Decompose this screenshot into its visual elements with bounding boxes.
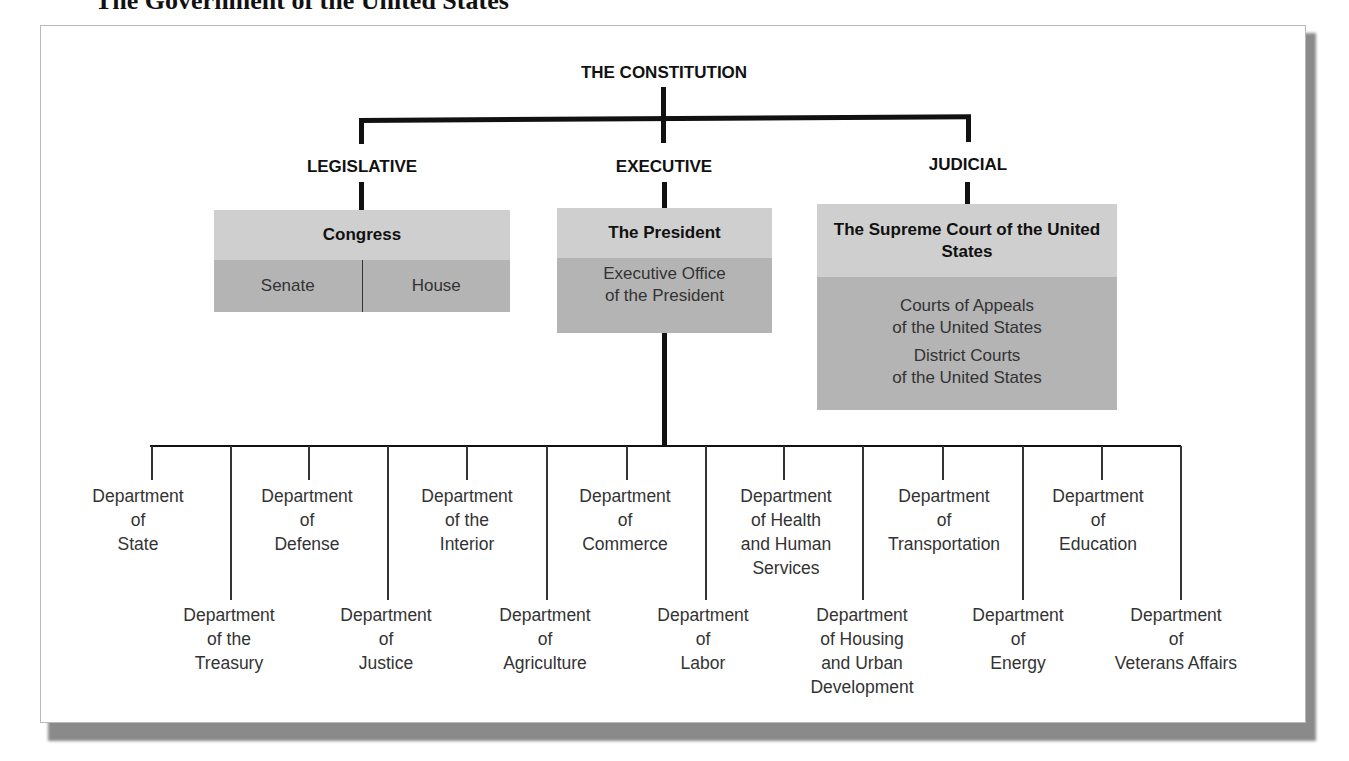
house-cell: House [363, 260, 511, 312]
drop-state [151, 446, 153, 480]
dept-treasury: Department of the Treasury [149, 603, 309, 675]
supreme-court-title: The Supreme Court of the United States [817, 204, 1117, 277]
dept-energy: Department of Energy [938, 603, 1098, 675]
district-courts: District Courts of the United States [817, 345, 1117, 389]
executive-trunk [662, 333, 667, 447]
executive-office: Executive Office of the President [557, 258, 772, 333]
legislative-drop [359, 182, 364, 211]
executive-label: EXECUTIVE [616, 157, 712, 177]
dept-transportation: Department of Transportation [864, 484, 1024, 556]
dept-education: Department of Education [1018, 484, 1178, 556]
dept-agriculture: Department of Agriculture [465, 603, 625, 675]
drop-defense [308, 446, 310, 480]
judicial-drop [965, 182, 970, 205]
dept-state: Department of State [58, 484, 218, 556]
drop-interior [466, 446, 468, 480]
drop-hhs [783, 446, 785, 480]
drop-transportation [942, 446, 944, 480]
courts-of-appeals: Courts of Appeals of the United States [817, 295, 1117, 339]
judicial-connector [966, 116, 971, 142]
legislative-label: LEGISLATIVE [307, 157, 417, 177]
dept-defense: Department of Defense [227, 484, 387, 556]
dept-labor: Department of Labor [623, 603, 783, 675]
dept-veterans: Department of Veterans Affairs [1096, 603, 1256, 675]
congress-chambers: Senate House [214, 260, 510, 312]
drop-education [1101, 446, 1103, 480]
congress-box: Congress Senate House [214, 210, 510, 312]
supreme-court-box: The Supreme Court of the United States C… [817, 204, 1117, 410]
dept-hhs: Department of Health and Human Services [706, 484, 866, 580]
president-box: The President Executive Office of the Pr… [557, 208, 772, 333]
dept-justice: Department of Justice [306, 603, 466, 675]
dept-commerce: Department of Commerce [545, 484, 705, 556]
congress-title: Congress [214, 210, 510, 260]
dept-interior: Department of the Interior [387, 484, 547, 556]
president-title: The President [557, 208, 772, 258]
page-title: The Government of the United States [95, 0, 509, 16]
judicial-label: JUDICIAL [929, 155, 1007, 175]
root-connector [661, 87, 666, 143]
department-bar [150, 445, 1181, 447]
constitution-label: THE CONSTITUTION [581, 63, 747, 83]
executive-drop [662, 182, 667, 209]
drop-commerce [626, 446, 628, 480]
lower-courts: Courts of Appeals of the United States D… [817, 277, 1117, 410]
dept-hud: Department of Housing and Urban Developm… [782, 603, 942, 699]
legislative-connector [359, 120, 364, 144]
senate-cell: Senate [214, 260, 363, 312]
drop-veterans [1180, 446, 1182, 600]
